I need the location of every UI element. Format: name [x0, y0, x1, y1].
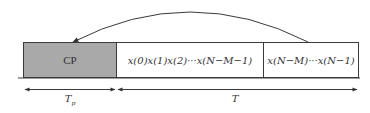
cp-label: CP	[63, 54, 76, 66]
tp-label: Tp	[65, 93, 76, 107]
body-block: x(0)x(1)x(2)···x(N−M−1)	[117, 43, 264, 78]
t-label: T	[232, 93, 240, 104]
cyclic-prefix-diagram: CP x(0)x(1)x(2)···x(N−M−1) x(N−M)···x(N−…	[0, 0, 370, 113]
tail-block: x(N−M)···x(N−1)	[264, 43, 359, 78]
tail-label: x(N−M)···x(N−1)	[267, 55, 354, 66]
cp-block: CP	[24, 43, 117, 78]
copy-arrow	[73, 12, 308, 42]
body-label: x(0)x(1)x(2)···x(N−M−1)	[128, 55, 253, 66]
